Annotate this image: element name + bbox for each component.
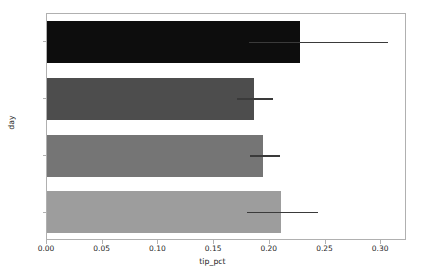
xtick-label-6: 0.30 xyxy=(360,245,400,253)
xtick-mark-3 xyxy=(213,240,214,244)
ytick-mark-thur xyxy=(43,155,47,156)
ytick-mark-sat xyxy=(43,98,47,99)
ytick-mark-fri xyxy=(43,212,47,213)
error-bar-thur xyxy=(250,155,280,157)
error-bar-sun xyxy=(249,42,388,44)
xtick-mark-4 xyxy=(269,240,270,244)
bar-thur xyxy=(47,135,263,177)
xtick-label-4: 0.20 xyxy=(249,245,289,253)
x-axis-label: tip_pct xyxy=(0,257,425,266)
figure-canvas: Sun Sat Thur Fri 0.00 0.05 0.10 0.15 0.2… xyxy=(0,0,425,273)
bar-fri xyxy=(47,191,281,233)
xtick-mark-0 xyxy=(46,240,47,244)
bar-row-sat xyxy=(47,71,405,128)
xtick-label-2: 0.10 xyxy=(137,245,177,253)
xtick-label-5: 0.25 xyxy=(305,245,345,253)
xtick-mark-1 xyxy=(102,240,103,244)
bar-sat xyxy=(47,78,254,120)
error-bar-fri xyxy=(247,212,318,214)
xtick-mark-2 xyxy=(157,240,158,244)
xtick-label-3: 0.15 xyxy=(193,245,233,253)
bar-row-fri xyxy=(47,184,405,240)
xtick-mark-5 xyxy=(325,240,326,244)
y-axis-label: day xyxy=(7,103,16,143)
ytick-mark-sun xyxy=(43,41,47,42)
xtick-mark-6 xyxy=(380,240,381,244)
plot-axes-area xyxy=(46,13,406,240)
error-bar-sat xyxy=(237,98,273,100)
bar-row-sun xyxy=(47,14,405,71)
xtick-label-0: 0.00 xyxy=(26,245,66,253)
xtick-label-1: 0.05 xyxy=(82,245,122,253)
bar-row-thur xyxy=(47,128,405,185)
